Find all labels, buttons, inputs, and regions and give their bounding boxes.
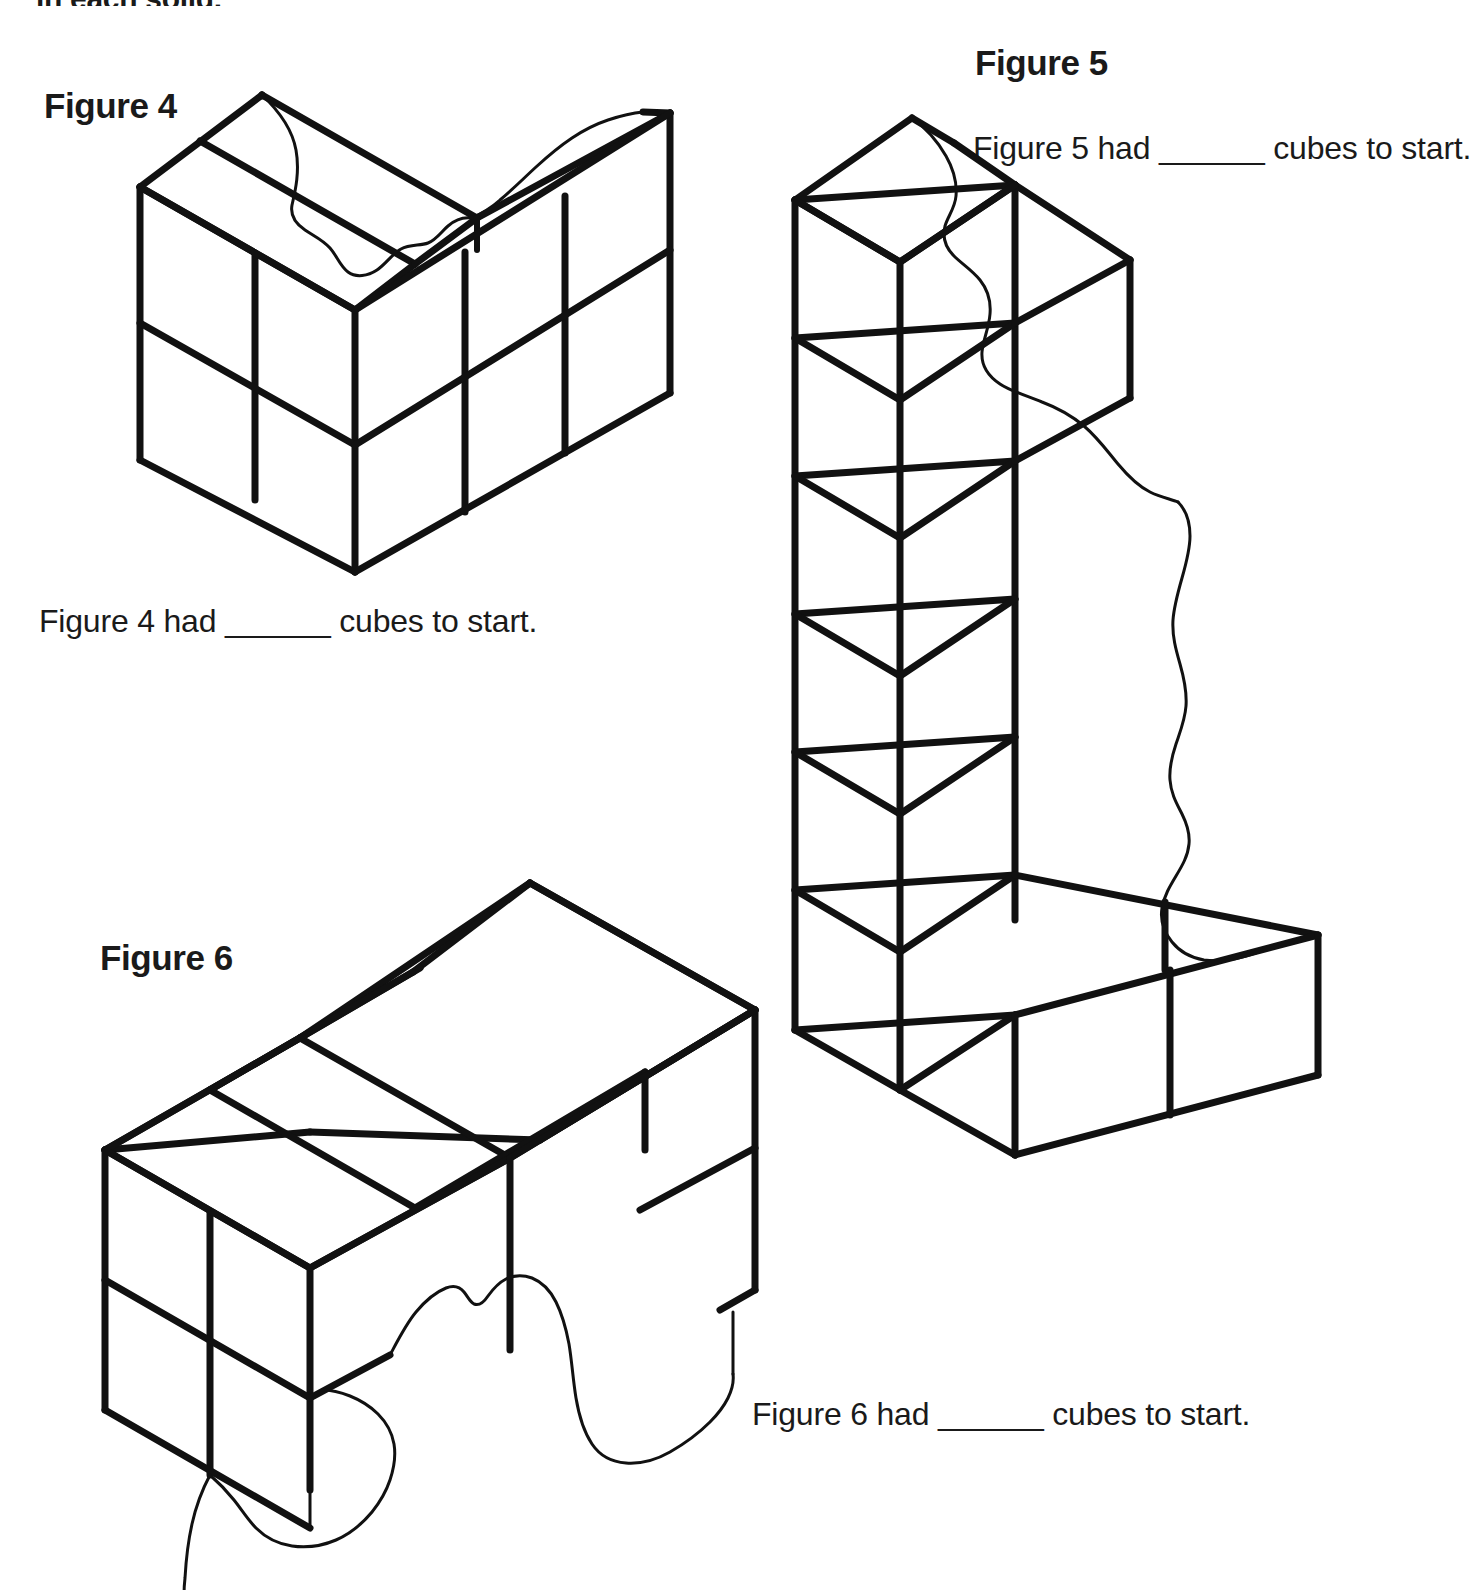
figure-6-solid bbox=[60, 850, 820, 1590]
figure-4-solid bbox=[0, 0, 720, 620]
figure-4-caption: Figure 4 had ______ cubes to start. bbox=[39, 605, 537, 637]
figure-6-caption: Figure 6 had ______ cubes to start. bbox=[752, 1398, 1250, 1430]
figure-5-title: Figure 5 bbox=[975, 45, 1108, 80]
figure-5-solid bbox=[740, 90, 1380, 1180]
